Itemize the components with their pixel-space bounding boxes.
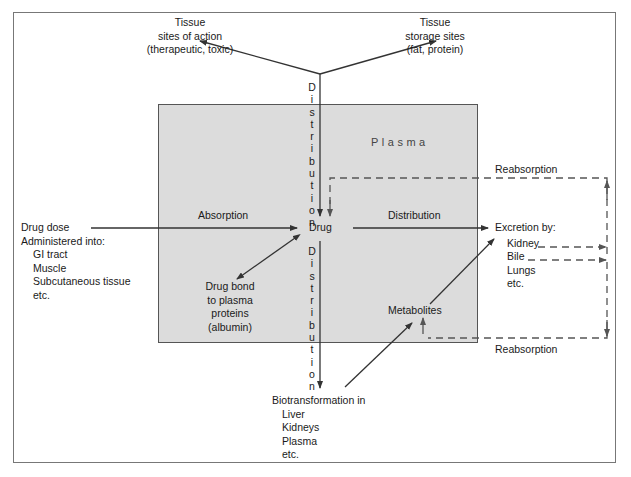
excretion-item: Bile bbox=[507, 250, 556, 264]
tissue-action-line3: (therapeutic, toxic) bbox=[135, 43, 245, 57]
biotransformation-item: Liver bbox=[282, 408, 365, 422]
route-item: Muscle bbox=[33, 262, 130, 276]
tissue-storage-line3: (fat, protein) bbox=[385, 43, 485, 57]
absorption-label: Absorption bbox=[198, 209, 248, 223]
protein-bound-line2: to plasma bbox=[190, 294, 270, 308]
drug-label: Drug bbox=[309, 221, 332, 235]
tissue-storage-line2: storage sites bbox=[385, 30, 485, 44]
biotransformation-item: Kidneys bbox=[282, 421, 365, 435]
excretion-block: Excretion by: Kidney Bile Lungs etc. bbox=[495, 221, 556, 291]
route-item: Subcutaneous tissue bbox=[33, 275, 130, 289]
drug-dose-block: Drug dose Administered into: GI tract Mu… bbox=[21, 221, 130, 302]
tissue-storage-line1: Tissue bbox=[385, 16, 485, 30]
biotransformation-item: Plasma bbox=[282, 435, 365, 449]
tissue-action-line2: sites of action bbox=[135, 30, 245, 44]
reabsorption-top-label: Reabsorption bbox=[495, 163, 557, 177]
protein-bound-line1: Drug bond bbox=[190, 280, 270, 294]
tissue-action-line1: Tissue bbox=[135, 16, 245, 30]
tissue-action-label: Tissue sites of action (therapeutic, tox… bbox=[135, 16, 245, 57]
distribution-label: Distribution bbox=[388, 209, 441, 223]
distribution-vertical-bottom: D i s t r i b u t i o n bbox=[307, 245, 317, 393]
route-item: GI tract bbox=[33, 248, 130, 262]
route-item: etc. bbox=[33, 289, 130, 303]
drug-dose-line1: Drug dose bbox=[21, 221, 130, 235]
metabolites-label: Metabolites bbox=[388, 304, 442, 318]
distribution-vertical-top: D i s t r i b u t i o n bbox=[307, 81, 317, 229]
excretion-item: etc. bbox=[507, 277, 556, 291]
protein-bound-line4: (albumin) bbox=[190, 321, 270, 335]
protein-bound-line3: proteins bbox=[190, 307, 270, 321]
biotransformation-block: Biotransformation in Liver Kidneys Plasm… bbox=[272, 394, 365, 462]
excretion-title: Excretion by: bbox=[495, 221, 556, 235]
excretion-item: Kidney bbox=[507, 237, 556, 251]
plasma-label: Plasma bbox=[371, 136, 429, 148]
drug-dose-line2: Administered into: bbox=[21, 235, 130, 249]
biotransformation-title: Biotransformation in bbox=[272, 394, 365, 408]
protein-bound-label: Drug bond to plasma proteins (albumin) bbox=[190, 280, 270, 334]
biotransformation-item: etc. bbox=[282, 448, 365, 462]
tissue-storage-label: Tissue storage sites (fat, protein) bbox=[385, 16, 485, 57]
reabsorption-bottom-label: Reabsorption bbox=[495, 343, 557, 357]
excretion-item: Lungs bbox=[507, 264, 556, 278]
